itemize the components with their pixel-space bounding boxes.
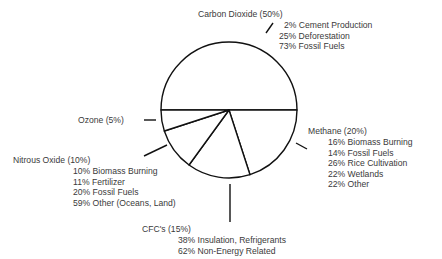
breakdown-label-methane: 16% Biomass Burning (328, 137, 413, 147)
breakdown-label-nitrous-oxide: 59% Other (Oceans, Land) (73, 198, 176, 208)
pie-chart: Carbon Dioxide (50%)2% Cement Production… (0, 0, 442, 259)
breakdown-label-nitrous-oxide: 20% Fossil Fuels (73, 187, 138, 197)
breakdown-label-methane: 22% Other (328, 179, 369, 189)
slice-label-methane: Methane (20%) (308, 126, 367, 136)
slice-label-nitrous-oxide: Nitrous Oxide (10%) (13, 155, 91, 165)
breakdown-label-cfc-s: 62% Non-Energy Related (178, 246, 276, 256)
pie-slice-carbon-dioxide (161, 42, 297, 110)
breakdown-label-cfc-s: 38% Insulation, Refrigerants (178, 235, 286, 245)
breakdown-label-methane: 26% Rice Cultivation (328, 158, 408, 168)
breakdown-label-carbon-dioxide: 25% Deforestation (279, 31, 350, 41)
leader-line-methane (296, 143, 307, 149)
slice-label-cfc-s: CFC's (15%) (142, 224, 191, 234)
leader-line-nitrous-oxide (144, 145, 167, 156)
breakdown-label-methane: 22% Wetlands (328, 169, 383, 179)
breakdown-label-nitrous-oxide: 11% Fertilizer (73, 177, 125, 187)
slice-label-carbon-dioxide: Carbon Dioxide (50%) (198, 9, 283, 19)
slice-label-ozone: Ozone (5%) (78, 115, 124, 125)
breakdown-label-carbon-dioxide: 2% Cement Production (284, 20, 373, 30)
breakdown-label-carbon-dioxide: 73% Fossil Fuels (279, 41, 344, 51)
breakdown-label-methane: 14% Fossil Fuels (328, 148, 393, 158)
leader-line-carbon-dioxide (266, 23, 273, 33)
breakdown-label-nitrous-oxide: 10% Biomass Burning (73, 166, 158, 176)
